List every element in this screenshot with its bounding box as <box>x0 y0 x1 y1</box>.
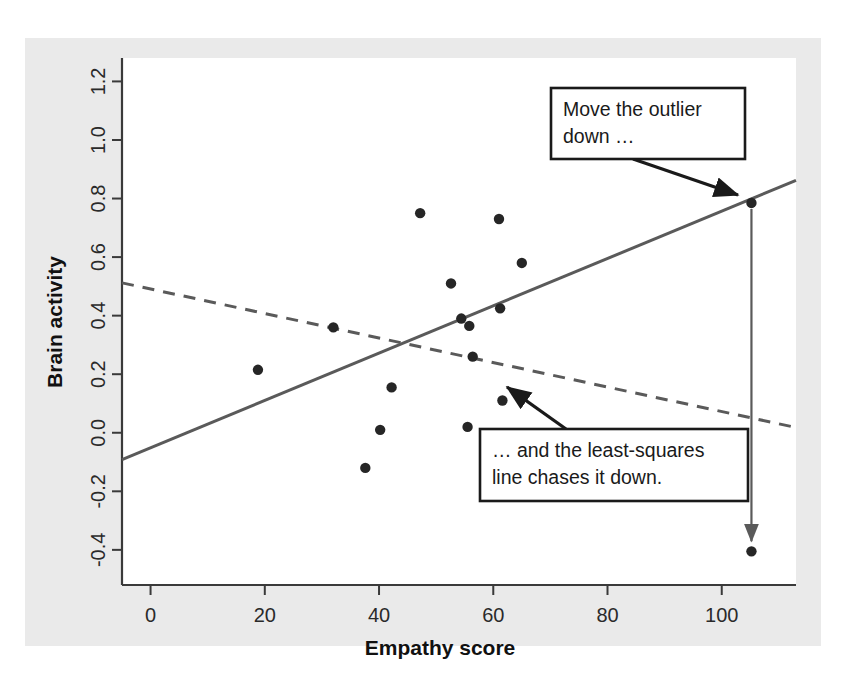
y-tick-label: 0.8 <box>87 185 109 213</box>
data-point <box>494 214 504 224</box>
data-point <box>253 365 263 375</box>
data-point <box>746 546 756 556</box>
y-axis-title: Brain activity <box>43 256 66 388</box>
scatter-plot: -0.4-0.20.00.20.40.60.81.01.2 Brain acti… <box>0 0 851 682</box>
data-point <box>446 278 456 288</box>
annotation-text-line: Move the outlier <box>563 98 702 120</box>
data-point <box>497 395 507 405</box>
y-tick-label: 1.2 <box>87 68 109 96</box>
x-tick-label: 20 <box>254 604 276 626</box>
y-axis-tick-labels: -0.4-0.20.00.20.40.60.81.01.2 <box>87 68 109 568</box>
y-axis: -0.4-0.20.00.20.40.60.81.01.2 Brain acti… <box>43 58 122 585</box>
y-tick-label: -0.4 <box>87 533 109 567</box>
data-point <box>462 422 472 432</box>
data-point <box>360 463 370 473</box>
x-axis-ticks <box>151 585 722 595</box>
data-point <box>415 208 425 218</box>
y-tick-label: 1.0 <box>87 126 109 154</box>
x-tick-label: 80 <box>596 604 618 626</box>
y-tick-label: 0.0 <box>87 419 109 447</box>
x-tick-label: 60 <box>482 604 504 626</box>
y-tick-label: 0.4 <box>87 302 109 330</box>
data-point <box>464 321 474 331</box>
x-axis-title: Empathy score <box>365 636 516 659</box>
data-point <box>746 198 756 208</box>
x-tick-label: 0 <box>145 604 156 626</box>
data-point <box>375 425 385 435</box>
annotation-text-line: … and the least-squares <box>492 439 705 461</box>
y-tick-label: -0.2 <box>87 474 109 508</box>
y-tick-label: 0.2 <box>87 360 109 388</box>
annotation-text-line: down … <box>563 125 635 147</box>
x-axis-tick-labels: 020406080100 <box>145 604 738 626</box>
data-point <box>495 303 505 313</box>
data-point <box>386 382 396 392</box>
y-axis-ticks <box>112 81 122 549</box>
x-tick-label: 40 <box>368 604 390 626</box>
figure-container: -0.4-0.20.00.20.40.60.81.01.2 Brain acti… <box>0 0 851 682</box>
x-axis: 020406080100 Empathy score <box>122 585 796 659</box>
data-point <box>456 313 466 323</box>
y-tick-label: 0.6 <box>87 243 109 271</box>
annotation-text-line: line chases it down. <box>492 466 662 488</box>
data-point <box>468 351 478 361</box>
data-point <box>517 258 527 268</box>
x-tick-label: 100 <box>705 604 738 626</box>
data-point <box>328 322 338 332</box>
